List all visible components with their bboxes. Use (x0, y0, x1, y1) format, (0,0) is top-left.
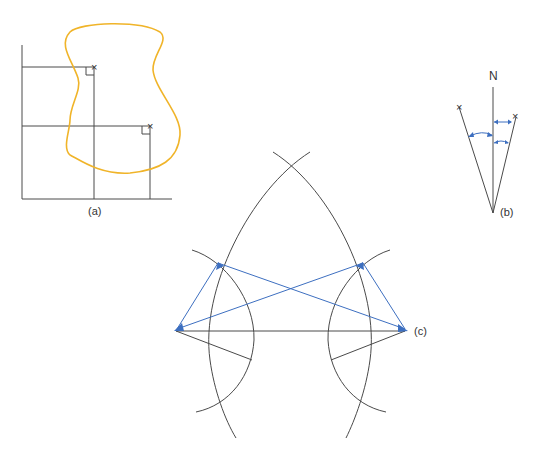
large-arc-left (209, 152, 310, 438)
measurement-line (177, 263, 218, 329)
measurement-line (177, 263, 363, 329)
irregular-boundary (65, 24, 180, 173)
panel-c: (c) (174, 152, 427, 438)
measurement-line (363, 263, 405, 329)
panel-a-label: (a) (88, 205, 101, 217)
arrowhead-icon (174, 323, 184, 331)
panel-b: N × × (b) (456, 69, 518, 218)
construction-line (176, 331, 252, 360)
north-label: N (489, 69, 498, 83)
bearing-line-right (493, 117, 516, 213)
point-marker-icon: × (512, 110, 518, 122)
construction-line (331, 331, 405, 360)
point-marker-icon: × (91, 61, 97, 73)
point-marker-icon: × (147, 120, 153, 132)
panel-c-label: (c) (414, 325, 427, 337)
panel-b-label: (b) (500, 206, 513, 218)
measurement-line (218, 263, 405, 329)
diagram-canvas: × × (a) N × × (b) (0, 0, 535, 459)
point-marker-icon: × (456, 101, 462, 113)
panel-a: × × (a) (22, 24, 180, 217)
bearing-line-left (459, 107, 493, 213)
arrowhead-icon (356, 262, 364, 270)
large-arc-right (273, 152, 371, 438)
